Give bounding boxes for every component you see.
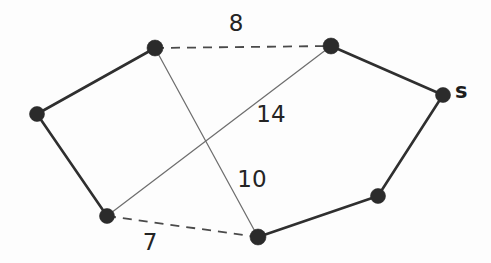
edge-s-bottomright[interactable]: [378, 95, 443, 196]
edges-layer: [37, 46, 443, 237]
edge-left-topleft[interactable]: [37, 48, 155, 114]
node-label-s: s: [455, 79, 468, 103]
edge-left-bottomleft[interactable]: [37, 114, 107, 216]
node-topright[interactable]: [323, 38, 339, 54]
node-bottomright[interactable]: [371, 189, 386, 204]
edge-weight-label-14: 14: [256, 101, 285, 127]
edge-bottomleft-bottomcenter[interactable]: [107, 216, 258, 237]
node-bottomcenter[interactable]: [250, 229, 266, 245]
node-left[interactable]: [30, 107, 45, 122]
edge-bottomleft-topright[interactable]: [107, 46, 331, 216]
node-topleft[interactable]: [147, 40, 163, 56]
nodes-layer: [30, 38, 451, 245]
edge-weight-label-10: 10: [237, 166, 266, 192]
graph-svg: 8 14 10 7 s: [0, 0, 491, 263]
graph-diagram-canvas: 8 14 10 7 s: [0, 0, 491, 263]
edge-topright-s[interactable]: [331, 46, 443, 95]
node-s[interactable]: [436, 88, 451, 103]
edge-topleft-bottomcenter[interactable]: [155, 48, 258, 237]
edge-topleft-topright[interactable]: [155, 46, 331, 48]
edge-bottomright-bottomcenter[interactable]: [258, 196, 378, 237]
edge-weight-label-7: 7: [143, 229, 158, 255]
node-bottomleft[interactable]: [100, 209, 115, 224]
edge-weight-label-8: 8: [229, 10, 244, 36]
